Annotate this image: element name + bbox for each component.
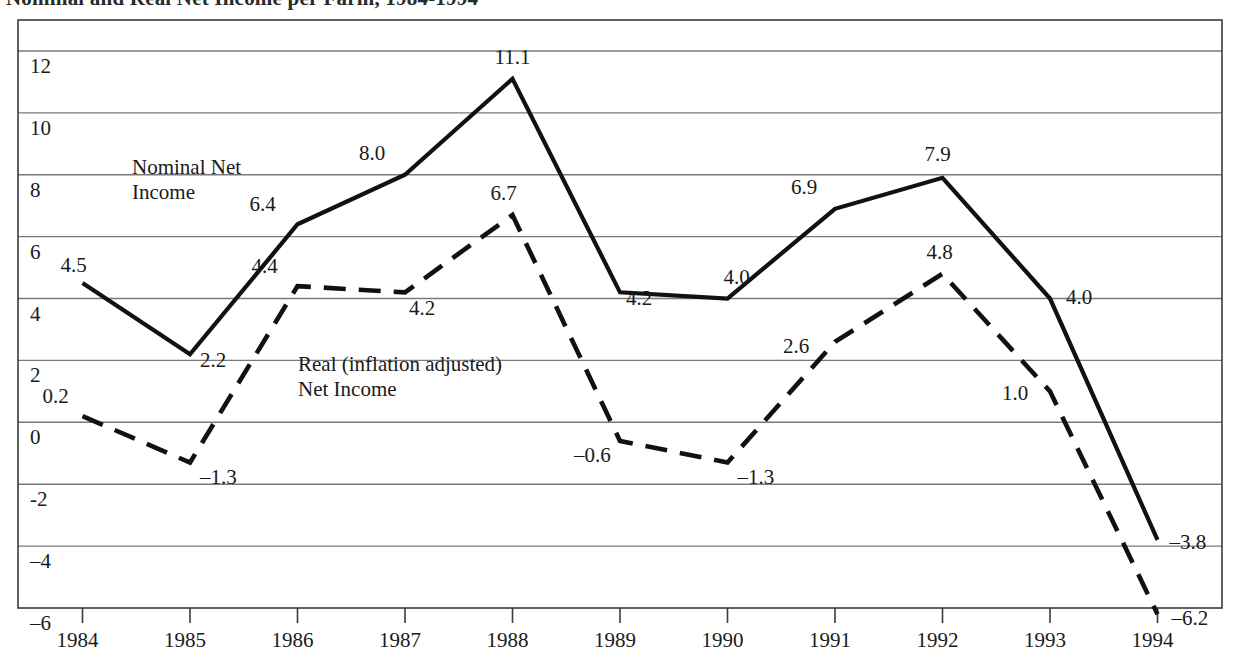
series-annotation-nominal: Nominal Net Income <box>132 155 241 205</box>
series-annotation-nominal-line2: Income <box>132 180 241 205</box>
y-axis-label: –6 <box>30 611 51 636</box>
x-axis-ticks <box>83 608 1158 623</box>
data-label-nominal: 4.5 <box>61 253 87 278</box>
data-label-real: –6.2 <box>1172 606 1209 631</box>
data-label-nominal: 7.9 <box>925 142 951 167</box>
chart-figure: Nominal and Real Net Income per Farm, 19… <box>0 0 1234 661</box>
x-axis-label: 1992 <box>917 628 959 653</box>
data-label-nominal: 2.2 <box>200 348 226 373</box>
data-label-real: 0.2 <box>43 384 69 409</box>
series-annotation-real-line1: Real (inflation adjusted) <box>298 352 502 377</box>
series-line-nominal <box>83 79 1158 540</box>
x-axis-label: 1988 <box>487 628 529 653</box>
x-axis-label: 1991 <box>809 628 851 653</box>
y-axis-label: -2 <box>30 487 48 512</box>
data-label-real: 4.4 <box>252 254 278 279</box>
plot-frame <box>18 20 1222 608</box>
data-label-nominal: 11.1 <box>495 45 531 70</box>
data-label-nominal: 8.0 <box>359 141 385 166</box>
series-annotation-nominal-line1: Nominal Net <box>132 155 241 180</box>
x-axis-label: 1993 <box>1024 628 1066 653</box>
x-axis-label: 1985 <box>164 628 206 653</box>
x-axis-label: 1986 <box>272 628 314 653</box>
y-axis-label: 2 <box>30 363 41 388</box>
data-label-real: 6.7 <box>491 181 517 206</box>
data-label-nominal: 4.0 <box>724 265 750 290</box>
data-label-nominal: 6.9 <box>791 175 817 200</box>
data-label-nominal: 6.4 <box>250 192 276 217</box>
y-axis-label: 10 <box>30 116 51 141</box>
data-label-real: 4.8 <box>927 240 953 265</box>
y-axis-label: 4 <box>30 302 41 327</box>
y-axis-label: 8 <box>30 178 41 203</box>
x-axis-label: 1994 <box>1132 628 1174 653</box>
x-axis-label: 1987 <box>379 628 421 653</box>
data-label-nominal: –3.8 <box>1170 530 1207 555</box>
y-axis-label: –4 <box>30 549 51 574</box>
series-annotation-real-line2: Net Income <box>298 377 502 402</box>
data-label-nominal: 4.2 <box>626 286 652 311</box>
x-axis-label: 1990 <box>702 628 744 653</box>
series-line-real <box>83 215 1158 614</box>
data-label-real: –1.3 <box>200 465 237 490</box>
data-label-real: 2.6 <box>783 334 809 359</box>
y-axis-label: 6 <box>30 240 41 265</box>
series-layer <box>83 79 1158 614</box>
x-axis-label: 1984 <box>57 628 99 653</box>
data-label-real: 1.0 <box>1002 381 1028 406</box>
x-axis-label: 1989 <box>594 628 636 653</box>
data-label-real: –1.3 <box>738 465 775 490</box>
chart-canvas <box>0 0 1234 661</box>
data-label-nominal: 4.0 <box>1066 285 1092 310</box>
series-annotation-real: Real (inflation adjusted) Net Income <box>298 352 502 402</box>
data-label-real: 4.2 <box>409 296 435 321</box>
data-label-real: –0.6 <box>574 443 611 468</box>
gridlines <box>18 51 1222 546</box>
y-axis-label: 0 <box>30 425 41 450</box>
y-axis-label: 12 <box>30 54 51 79</box>
